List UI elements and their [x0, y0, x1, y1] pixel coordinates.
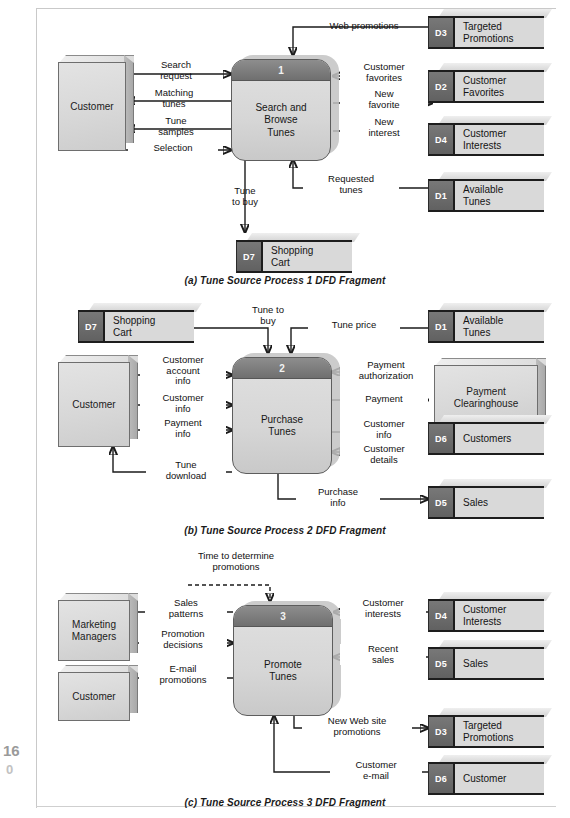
store-tag: D4: [429, 601, 455, 630]
figure-page: 16 0: [0, 0, 570, 818]
data-store-d4-c: D4 Customer Interests: [428, 592, 552, 632]
store-body: D4 Customer Interests: [428, 599, 544, 632]
flow-label-customer-email: Customer e-mail: [330, 760, 422, 781]
process-3: 3 Promote Tunes: [233, 601, 341, 716]
process-number: 3: [234, 606, 332, 627]
store-name: Targeted Promotions: [455, 717, 544, 746]
flow-label-email-promotions: E-mail promotions: [139, 664, 227, 685]
entity-label: Marketing Managers: [69, 619, 119, 643]
data-store-d5-c: D5 Sales: [428, 640, 552, 680]
entity-label: Payment Clearinghouse: [451, 386, 522, 410]
entity-marketing-managers: Marketing Managers: [58, 593, 138, 661]
store-name: Sales: [455, 649, 544, 678]
store-body: D5 Sales: [428, 647, 544, 680]
caption-fragment-c: (c) Tune Source Process 3 DFD Fragment: [0, 797, 570, 808]
store-tag: D6: [429, 764, 455, 793]
store-body: D3 Targeted Promotions: [428, 715, 544, 748]
entity-label: Customer: [69, 691, 118, 703]
flow-label-new-web-site-promotions: New Web site promotions: [302, 716, 412, 737]
data-store-d6-c: D6 Customer: [428, 755, 552, 795]
flow-label-customer-interests: Customer interests: [340, 598, 426, 619]
process-body: 3 Promote Tunes: [233, 605, 333, 716]
process-name: Promote Tunes: [234, 627, 332, 715]
entity-label: Customer: [69, 399, 118, 411]
store-tag: D5: [429, 649, 455, 678]
entity-front-face: Customer: [58, 672, 130, 721]
entity-front-face: Marketing Managers: [58, 600, 130, 661]
store-name: Customer: [455, 764, 544, 793]
entity-label: Customer: [67, 101, 116, 113]
store-body: D6 Customer: [428, 762, 544, 795]
store-name: Customer Interests: [455, 601, 544, 630]
flow-label-sales-patterns: Sales patterns: [145, 598, 227, 619]
flow-label-recent-sales: Recent sales: [340, 644, 426, 665]
store-tag: D3: [429, 717, 455, 746]
flow-label-time-to-determine-promotions: Time to determine promotions: [166, 551, 306, 572]
flow-label-promotion-decisions: Promotion decisions: [139, 629, 227, 650]
entity-customer-c: Customer: [58, 665, 138, 721]
data-store-d3-c: D3 Targeted Promotions: [428, 708, 552, 748]
